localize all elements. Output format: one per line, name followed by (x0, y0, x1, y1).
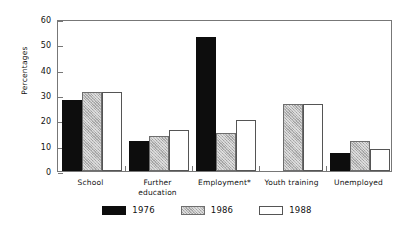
legend-label-1976: 1976 (132, 205, 154, 215)
plot-area (57, 20, 392, 172)
y-axis-tick-label: 60 (11, 20, 51, 21)
x-axis-label-unemployed: Unemployed (313, 178, 404, 188)
bar-1986-further-education (149, 136, 169, 171)
legend-swatch-1986 (181, 206, 205, 215)
y-axis-tick-label: 30 (11, 96, 51, 97)
bar-1976-unemployed (330, 153, 350, 171)
legend-item-1986: 1986 (181, 205, 233, 215)
chart-legend: 197619861988 (0, 205, 414, 215)
bar-1988-employment (236, 120, 256, 171)
bar-1988-further-education (169, 130, 189, 171)
y-axis-tick (58, 72, 63, 73)
legend-item-1988: 1988 (259, 205, 311, 215)
y-axis-tick (58, 21, 63, 22)
bar-1986-unemployed (350, 141, 370, 171)
bar-1988-school (102, 92, 122, 171)
y-axis-tick-label: 20 (11, 121, 51, 122)
y-axis-tick (58, 173, 63, 174)
legend-swatch-1976 (102, 206, 126, 215)
y-axis-tick (58, 97, 63, 98)
y-axis-tick-label: 40 (11, 71, 51, 72)
plot-inner (58, 21, 391, 171)
x-axis-label-line: Unemployed (313, 178, 404, 188)
legend-label-1988: 1988 (289, 205, 311, 215)
legend-label-1986: 1986 (211, 205, 233, 215)
bar-1988-unemployed (370, 149, 390, 171)
legend-swatch-1988 (259, 206, 283, 215)
x-axis-separator-tick (125, 166, 126, 171)
bar-1986-youth-training (283, 104, 303, 171)
bar-chart: Percentages 0102030405060 SchoolFurthere… (0, 0, 414, 240)
y-axis-tick (58, 46, 63, 47)
bar-1986-school (82, 92, 102, 171)
x-axis-separator-tick (326, 166, 327, 171)
bar-1986-employment (216, 133, 236, 171)
x-axis-label-line: education (112, 188, 203, 198)
x-axis-separator-tick (192, 166, 193, 171)
bar-1976-school (62, 100, 82, 171)
x-axis-separator-tick (259, 166, 260, 171)
bar-1976-employment (196, 37, 216, 171)
legend-item-1976: 1976 (102, 205, 154, 215)
bar-1988-youth-training (303, 104, 323, 171)
bar-1976-further-education (129, 141, 149, 171)
y-axis-tick-label: 0 (11, 172, 51, 173)
y-axis-tick-label: 10 (11, 147, 51, 148)
y-axis-tick-label: 50 (11, 45, 51, 46)
